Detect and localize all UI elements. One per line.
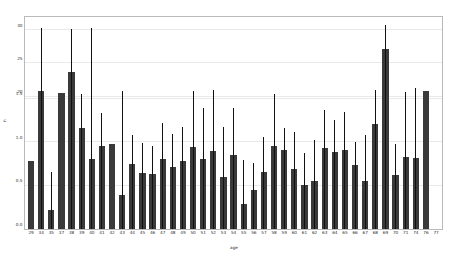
x-axis-title: age — [0, 245, 468, 250]
error-bar — [415, 88, 416, 229]
bar-slot: 44 — [127, 17, 137, 229]
x-tick-label: 46 — [150, 231, 155, 235]
x-tick-label: 50 — [190, 231, 195, 235]
x-tick-label: 76 — [423, 231, 428, 235]
x-tick-label: 58 — [271, 231, 276, 235]
error-bar — [355, 142, 356, 229]
x-tick-label: 67 — [363, 231, 368, 235]
x-tick-label: 63 — [322, 231, 327, 235]
x-tick-label: 48 — [170, 231, 175, 235]
bar-slot: 57 — [259, 17, 269, 229]
x-tick-label: 68 — [373, 231, 378, 235]
bar-slot: 77 — [431, 17, 441, 229]
x-tick-label: 74 — [413, 231, 418, 235]
bar-slot: 65 — [340, 17, 350, 229]
error-bar — [294, 132, 295, 229]
bar-slot: 47 — [158, 17, 168, 229]
bar-slot: 41 — [97, 17, 107, 229]
bar-slot: 29 — [26, 17, 36, 229]
error-bar — [182, 127, 183, 229]
x-tick-label: 69 — [383, 231, 388, 235]
x-tick-label: 47 — [160, 231, 165, 235]
bar-slot: 52 — [208, 17, 218, 229]
x-tick-label: 41 — [99, 231, 104, 235]
x-tick-label: 70 — [393, 231, 398, 235]
bar-slot: 59 — [279, 17, 289, 229]
x-tick-label: 62 — [312, 231, 317, 235]
bar-slot: 45 — [137, 17, 147, 229]
bar-slot: 39 — [77, 17, 87, 229]
bar-slot: 71 — [401, 17, 411, 229]
x-tick-label: 43 — [120, 231, 125, 235]
bar — [109, 144, 115, 229]
bar-slot: 50 — [188, 17, 198, 229]
error-bar — [213, 90, 214, 229]
bar-slot: 37 — [56, 17, 66, 229]
error-bar — [162, 123, 163, 229]
bar-slot: 67 — [360, 17, 370, 229]
x-tick-label: 66 — [352, 231, 357, 235]
bar — [28, 161, 34, 229]
error-bar — [122, 91, 123, 229]
x-tick-label: 39 — [79, 231, 84, 235]
y-tick-label: 1.0 — [16, 136, 23, 140]
error-bar — [81, 94, 82, 229]
error-bar — [274, 94, 275, 229]
error-bar — [304, 153, 305, 229]
bar-slot: 53 — [218, 17, 228, 229]
x-tick-label: 77 — [433, 231, 438, 235]
error-bar — [193, 91, 194, 229]
x-tick-label: 53 — [221, 231, 226, 235]
x-tick-label: 49 — [180, 231, 185, 235]
x-tick-label: 35 — [49, 231, 54, 235]
x-tick-label: 29 — [28, 231, 33, 235]
error-bar — [132, 135, 133, 229]
error-bar — [142, 143, 143, 229]
bar-slot: 64 — [330, 17, 340, 229]
error-bar — [365, 135, 366, 229]
error-bar — [324, 110, 325, 229]
bar-slot: 38 — [67, 17, 77, 229]
bar-series: 2934353738394041424344454647484950515253… — [25, 17, 442, 229]
error-bar — [263, 137, 264, 229]
x-tick-label: 59 — [282, 231, 287, 235]
bar-slot: 51 — [198, 17, 208, 229]
error-bar — [51, 172, 52, 229]
plot-area: 2025300.00.51.01.5 293435373839404142434… — [24, 16, 443, 230]
bar-slot: 56 — [249, 17, 259, 229]
bar-slot: 58 — [269, 17, 279, 229]
bar-slot: 60 — [289, 17, 299, 229]
x-tick-label: 56 — [251, 231, 256, 235]
x-tick-label: 44 — [130, 231, 135, 235]
x-tick-label: 65 — [342, 231, 347, 235]
x-tick-label: 45 — [140, 231, 145, 235]
bar-slot: 68 — [370, 17, 380, 229]
bar-slot: 49 — [178, 17, 188, 229]
y-tick-label: 25 — [17, 57, 22, 61]
error-bar — [253, 163, 254, 229]
error-bar — [385, 25, 386, 229]
y-tick-label: 0.0 — [16, 223, 23, 227]
bar-slot: 63 — [320, 17, 330, 229]
bar-slot: 61 — [299, 17, 309, 229]
error-bar — [223, 127, 224, 229]
y-tick-label: 0.5 — [16, 179, 23, 183]
x-tick-label: 55 — [241, 231, 246, 235]
bar-slot: 76 — [421, 17, 431, 229]
x-tick-label: 34 — [39, 231, 44, 235]
y-tick-label: 1.5 — [16, 92, 23, 96]
y-tick-label: 30 — [17, 24, 22, 28]
x-tick-label: 40 — [89, 231, 94, 235]
x-tick-label: 57 — [261, 231, 266, 235]
x-tick-label: 52 — [211, 231, 216, 235]
bar-slot: 55 — [239, 17, 249, 229]
x-tick-label: 42 — [109, 231, 114, 235]
error-bar — [334, 120, 335, 229]
bar-slot: 43 — [117, 17, 127, 229]
x-tick-label: 61 — [302, 231, 307, 235]
error-bar — [101, 113, 102, 229]
error-bar — [344, 112, 345, 229]
error-bar — [243, 160, 244, 229]
error-bar — [314, 140, 315, 229]
x-tick-label: 54 — [231, 231, 236, 235]
